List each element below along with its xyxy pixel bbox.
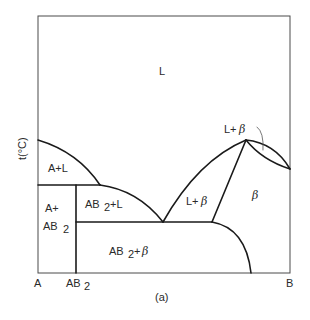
x-label-a: A bbox=[34, 277, 42, 289]
region-label-a-plus-ab2: A+ AB 2 bbox=[43, 202, 69, 235]
svg-text:L+: L+ bbox=[224, 123, 237, 135]
region-label-liquid: L bbox=[159, 65, 165, 77]
solidus-beta-line bbox=[212, 140, 246, 222]
svg-text:β: β bbox=[200, 195, 207, 208]
lens-liquidus-curve bbox=[246, 140, 290, 169]
lens-solidus-curve bbox=[246, 140, 290, 169]
svg-text:2: 2 bbox=[63, 223, 69, 235]
region-label-ab2-plus-beta: AB 2 + β bbox=[109, 245, 148, 260]
y-axis-label: t(°C) bbox=[16, 137, 28, 160]
caption: (a) bbox=[155, 291, 168, 303]
region-label-l-plus-beta-top: L+ β bbox=[224, 123, 245, 136]
svg-text:+: + bbox=[134, 245, 140, 257]
svg-text:2: 2 bbox=[84, 280, 90, 292]
x-label-b: B bbox=[286, 277, 293, 289]
svg-text:β: β bbox=[141, 245, 148, 258]
svg-text:AB: AB bbox=[66, 277, 81, 289]
phase-diagram: L A+L A+ AB 2 AB 2 +L L+ β β AB 2 + β L+… bbox=[0, 0, 310, 320]
solvus-curve bbox=[212, 222, 251, 273]
region-label-beta: β bbox=[251, 189, 258, 202]
region-label-l-plus-beta-center: L+ β bbox=[186, 195, 207, 208]
x-label-ab2: AB 2 bbox=[66, 277, 90, 292]
leader-line bbox=[257, 127, 263, 150]
svg-text:AB: AB bbox=[43, 220, 58, 232]
region-label-ab2-plus-l: AB 2 +L bbox=[85, 198, 123, 213]
svg-text:A+: A+ bbox=[45, 202, 59, 214]
svg-text:AB: AB bbox=[109, 245, 124, 257]
svg-text:AB: AB bbox=[85, 198, 100, 210]
svg-text:L+: L+ bbox=[186, 195, 199, 207]
region-label-a-plus-l: A+L bbox=[48, 162, 68, 174]
liquidus-beta-curve bbox=[163, 140, 246, 222]
svg-text:+L: +L bbox=[110, 198, 123, 210]
svg-text:β: β bbox=[238, 123, 245, 136]
